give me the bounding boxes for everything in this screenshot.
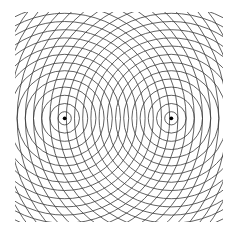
right-source-point-icon (169, 116, 173, 120)
wavefront-ring (1, 0, 233, 236)
wavefront-ring (0, 0, 233, 236)
right-source-wavefronts (0, 0, 233, 236)
left-source-point-icon (63, 116, 67, 120)
wavefront-ring (0, 5, 178, 231)
wavefront-ring (66, 13, 233, 223)
interference-diagram (0, 0, 233, 236)
wavefront-ring (0, 0, 233, 236)
wavefront-ring (17, 0, 233, 236)
wavefront-ring (75, 22, 234, 216)
wavefront-ring (0, 46, 137, 190)
left-source-wavefronts (0, 0, 233, 236)
wavefront-ring (0, 0, 233, 236)
